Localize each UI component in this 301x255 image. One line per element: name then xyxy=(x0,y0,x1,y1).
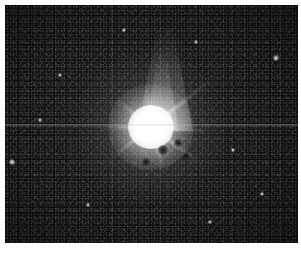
dark-knot-1 xyxy=(158,145,168,155)
film-grain-layer-2 xyxy=(5,5,298,243)
field-star-3 xyxy=(58,73,62,77)
dark-knot-3 xyxy=(142,158,150,166)
spike-down-right xyxy=(150,126,202,165)
star-outer-halo xyxy=(76,52,226,202)
film-grain-layer-3 xyxy=(5,5,298,243)
film-grain-layer-1 xyxy=(5,5,298,243)
field-star-1 xyxy=(273,55,279,61)
field-star-9 xyxy=(208,220,212,224)
astronomical-image-plate xyxy=(5,5,298,243)
spike-up xyxy=(145,87,152,127)
spike-down-left xyxy=(109,126,152,160)
spike-right xyxy=(151,126,209,133)
screenshot-root xyxy=(0,0,301,255)
dark-knot-4 xyxy=(183,153,189,159)
vignette-overlay xyxy=(5,5,298,243)
field-star-6 xyxy=(86,203,90,207)
star-core-glow xyxy=(128,105,174,149)
field-star-8 xyxy=(38,118,42,122)
horizontal-scan-line-artifact xyxy=(5,124,298,126)
upward-glow-plume-inner xyxy=(145,47,179,131)
field-star-2 xyxy=(9,159,15,165)
field-star-5 xyxy=(194,40,198,44)
field-star-4 xyxy=(231,148,235,152)
spike-down xyxy=(150,127,166,174)
spike-left xyxy=(96,126,151,130)
star-mid-halo xyxy=(108,84,194,170)
spike-up-left xyxy=(114,97,152,128)
upward-glow-plume xyxy=(137,23,193,131)
film-grain-layer-dark xyxy=(5,5,298,243)
field-star-7 xyxy=(260,192,264,196)
star-saturated-core xyxy=(136,113,166,141)
dark-knot-2 xyxy=(174,139,182,147)
spike-up-right xyxy=(150,78,213,128)
field-star-10 xyxy=(122,28,126,32)
